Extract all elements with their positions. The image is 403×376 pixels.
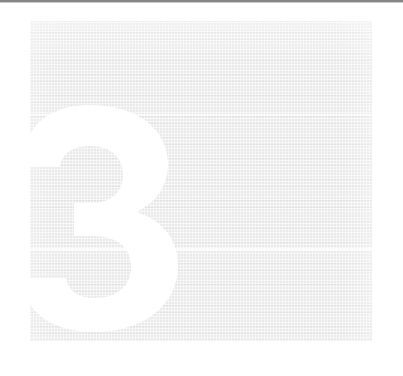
scan-falloff-overlay: [30, 21, 372, 341]
scan-texture-overlay: [30, 21, 372, 341]
upper-scan-band: [30, 114, 372, 116]
page-top-scan-edge-soft: [0, 2, 403, 3]
scanned-page: Chapter 3: [0, 0, 403, 376]
lower-scan-band: [30, 248, 372, 251]
chapter-tint-panel: [30, 21, 372, 341]
